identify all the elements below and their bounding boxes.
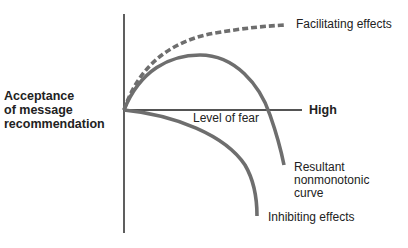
resultant-curve-label: Resultant nonmonotonic curve xyxy=(294,161,369,200)
facilitating-effects-label: Facilitating effects xyxy=(296,18,392,31)
x-axis-high-label: High xyxy=(309,103,337,117)
y-axis-label-line-2: of message xyxy=(4,103,105,117)
y-axis-label-line-1: Acceptance xyxy=(4,89,105,103)
x-axis-label: Level of fear xyxy=(193,112,259,125)
y-axis-label: Acceptance of message recommendation xyxy=(4,89,105,131)
inhibiting-effects-label: Inhibiting effects xyxy=(268,211,355,224)
inhibiting-effects-curve xyxy=(124,110,257,216)
y-axis-label-line-3: recommendation xyxy=(4,117,105,131)
resultant-label-line-3: curve xyxy=(294,187,369,200)
